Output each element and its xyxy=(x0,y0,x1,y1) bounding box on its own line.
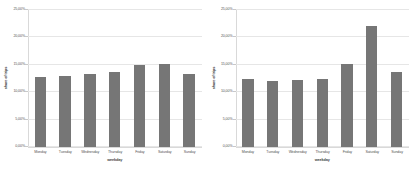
bar-slot-right-monday[interactable] xyxy=(236,10,261,147)
bar-series-right xyxy=(236,10,410,147)
bar-slot-right-saturday[interactable] xyxy=(359,10,384,147)
x-tick-label-wednesday: Wednesday xyxy=(81,150,99,154)
bar-sunday[interactable] xyxy=(391,72,402,147)
y-tick-label-left: 0,00% xyxy=(15,144,25,148)
y-tick-label-right: 20,00% xyxy=(221,34,233,38)
chart-panel-left: share of trips 0,00%5,00%10,00%15,00%20,… xyxy=(0,0,208,174)
bar-tuesday[interactable] xyxy=(267,81,278,147)
figure-container: share of trips 0,00%5,00%10,00%15,00%20,… xyxy=(0,0,415,174)
x-axis-title-right: weekday xyxy=(236,158,410,162)
bar-slot-left-wednesday[interactable] xyxy=(78,10,103,147)
x-tick-label-thursday: Thursday xyxy=(315,150,329,154)
x-tick-label-friday: Friday xyxy=(135,150,144,154)
bar-slot-left-thursday[interactable] xyxy=(102,10,127,147)
x-axis-line-left xyxy=(28,147,202,148)
chart-panel-right: share of trips 0,00%5,00%10,00%15,00%20,… xyxy=(208,0,415,174)
y-tick-label-right: 15,00% xyxy=(221,62,233,66)
y-tick-label-left: 25,00% xyxy=(13,7,25,11)
y-axis-title-left: share of trips xyxy=(4,67,8,90)
x-tick-label-monday: Monday xyxy=(242,150,254,154)
bar-slot-right-thursday[interactable] xyxy=(310,10,335,147)
bar-slot-right-friday[interactable] xyxy=(335,10,360,147)
x-tick-label-saturday: Saturday xyxy=(365,150,379,154)
bar-slot-left-saturday[interactable] xyxy=(152,10,177,147)
bar-thursday[interactable] xyxy=(109,72,120,147)
y-tick-label-left: 5,00% xyxy=(15,117,25,121)
bar-friday[interactable] xyxy=(341,64,352,147)
bar-slot-right-tuesday[interactable] xyxy=(260,10,285,147)
bar-slot-right-sunday[interactable] xyxy=(384,10,409,147)
x-tick-label-monday: Monday xyxy=(34,150,46,154)
bar-monday[interactable] xyxy=(242,79,253,147)
y-tick-label-left: 20,00% xyxy=(13,34,25,38)
y-tick-label-right: 5,00% xyxy=(223,117,233,121)
bar-monday[interactable] xyxy=(35,77,46,147)
bar-saturday[interactable] xyxy=(159,64,170,147)
bar-series-left xyxy=(28,10,202,147)
x-axis-line-right xyxy=(236,147,410,148)
bar-slot-left-monday[interactable] xyxy=(28,10,53,147)
bar-slot-left-tuesday[interactable] xyxy=(53,10,78,147)
x-axis-title-left: weekday xyxy=(28,158,202,162)
x-tick-label-wednesday: Wednesday xyxy=(289,150,307,154)
y-tick-label-right: 0,00% xyxy=(223,144,233,148)
x-tick-label-sunday: Sunday xyxy=(184,150,196,154)
x-tick-label-tuesday: Tuesday xyxy=(266,150,279,154)
bar-slot-left-friday[interactable] xyxy=(127,10,152,147)
y-tick-label-left: 10,00% xyxy=(13,89,25,93)
bar-wednesday[interactable] xyxy=(292,80,303,147)
x-tick-label-friday: Friday xyxy=(343,150,352,154)
plot-area-right: 0,00%5,00%10,00%15,00%20,00%25,00% xyxy=(236,10,410,147)
y-tick-label-right: 10,00% xyxy=(221,89,233,93)
bar-slot-left-sunday[interactable] xyxy=(177,10,202,147)
x-tick-label-sunday: Sunday xyxy=(391,150,403,154)
y-axis-title-right: share of trips xyxy=(212,67,216,90)
x-tick-label-saturday: Saturday xyxy=(158,150,172,154)
y-tick-label-left: 15,00% xyxy=(13,62,25,66)
bar-sunday[interactable] xyxy=(183,74,194,147)
y-tick-label-right: 25,00% xyxy=(221,7,233,11)
x-tick-label-tuesday: Tuesday xyxy=(59,150,72,154)
bar-wednesday[interactable] xyxy=(84,74,95,147)
x-tick-label-thursday: Thursday xyxy=(108,150,122,154)
bar-saturday[interactable] xyxy=(366,26,377,147)
bar-friday[interactable] xyxy=(134,65,145,147)
bar-slot-right-wednesday[interactable] xyxy=(285,10,310,147)
bar-tuesday[interactable] xyxy=(59,76,70,147)
bar-thursday[interactable] xyxy=(317,79,328,148)
plot-area-left: 0,00%5,00%10,00%15,00%20,00%25,00% xyxy=(28,10,202,147)
